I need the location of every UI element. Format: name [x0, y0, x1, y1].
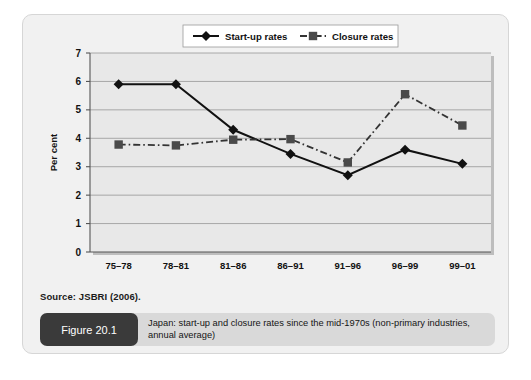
- ytick-label: 2: [75, 190, 81, 201]
- data-point-closure: [114, 140, 122, 148]
- ytick-label: 1: [75, 218, 81, 229]
- figure-caption-text: Japan: start-up and closure rates since …: [148, 318, 485, 342]
- ytick-label: 0: [75, 247, 81, 258]
- data-point-closure: [344, 158, 352, 166]
- xtick-label: 86–91: [277, 260, 304, 271]
- ytick-label: 3: [75, 161, 81, 172]
- figure-number-tag: Figure 20.1: [40, 313, 138, 346]
- data-point-closure: [401, 90, 409, 98]
- ytick-label: 6: [75, 76, 81, 87]
- ytick-label: 7: [75, 48, 81, 59]
- chart-container: 01234567Per cent75–7878–8181–8686–9191–9…: [23, 15, 510, 291]
- xtick-label: 99–01: [449, 260, 476, 271]
- xtick-label: 96–99: [392, 260, 418, 271]
- legend-label-startup: Start-up rates: [225, 31, 287, 42]
- data-point-closure: [458, 121, 466, 129]
- legend-marker-closure: [309, 32, 317, 40]
- legend-label-closure: Closure rates: [332, 31, 393, 42]
- xtick-label: 78–81: [163, 260, 190, 271]
- data-point-closure: [172, 141, 180, 149]
- y-axis-title: Per cent: [48, 133, 59, 171]
- figure-card: 01234567Per cent75–7878–8181–8686–9191–9…: [22, 14, 509, 354]
- data-point-closure: [229, 136, 237, 144]
- figure-caption-bar: Figure 20.1 Japan: start-up and closure …: [40, 313, 495, 346]
- xtick-label: 75–78: [105, 260, 131, 271]
- figure-caption-panel: Japan: start-up and closure rates since …: [130, 313, 495, 346]
- source-note: Source: JSBRI (2006).: [40, 291, 141, 302]
- ytick-label: 4: [75, 133, 81, 144]
- xtick-label: 81–86: [220, 260, 246, 271]
- figure-page: 01234567Per cent75–7878–8181–8686–9191–9…: [0, 0, 531, 380]
- ytick-label: 5: [75, 104, 81, 115]
- line-chart: 01234567Per cent75–7878–8181–8686–9191–9…: [23, 15, 510, 291]
- data-point-closure: [286, 135, 294, 143]
- xtick-label: 91–96: [335, 260, 361, 271]
